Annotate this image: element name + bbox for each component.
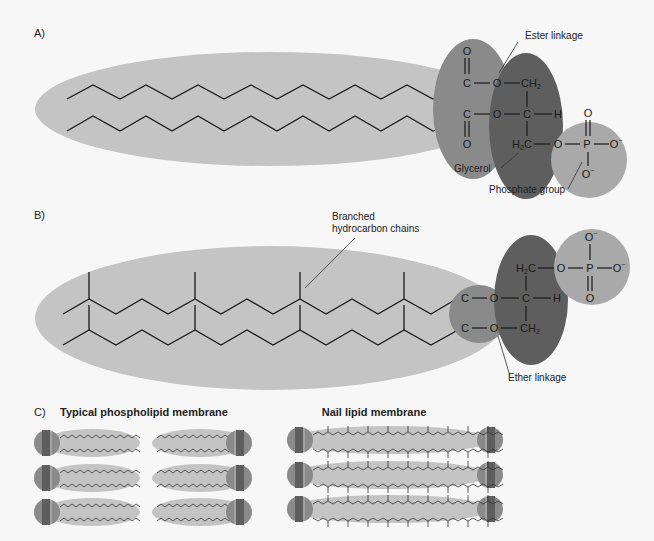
panel-a-atom: O [493,108,502,120]
typical-phospholipid-membrane [34,429,252,526]
panel-a-atom: O [463,45,472,57]
ether-linkage-label: Ether linkage [508,372,567,383]
panel-a-atom: C [463,77,471,89]
panel-b-atom: C [461,322,469,334]
phosphate-group-label: Phosphate group [489,184,566,195]
nail-lipid-row-3 [287,495,503,527]
panel-c-label: C) [34,406,46,418]
typical-lipid-right-row-1 [152,429,252,457]
panel-b-atom: H [553,292,561,304]
branched-chains-label-line1: Branched [332,211,375,222]
panel-b-atom: P [586,262,593,274]
panel-b-atom: O [586,292,595,304]
panel-a-atom: C [523,108,531,120]
panel-a-atom: O [493,77,502,89]
panel-a-glycerol-ellipse [489,53,563,199]
typical-lipid-left-row-3 [34,498,140,526]
panel-a-atom: C [463,108,471,120]
typical-lipid-left-row-2 [34,464,140,492]
branched-chains-label-line2: hydrocarbon chains [332,223,419,234]
panel-b-atom: C [461,292,469,304]
panel-a-atom: O [463,138,472,150]
panel-a-atom: H [554,108,562,120]
panel-b-label: B) [34,209,45,221]
nail-lipid-row-1 [287,426,503,458]
panel-b-atom: O [557,262,566,274]
nail-lipid-membrane [287,426,503,527]
nail-membrane-title: Nail lipid membrane [322,406,427,418]
lipid-membrane-diagram: A) O C O CH2 C O C H O H2C O P O− O O− E… [0,0,654,541]
panel-b-atom: O [490,292,499,304]
ester-linkage-label: Ester linkage [525,30,583,41]
diagram-canvas: A) O C O CH2 C O C H O H2C O P O− O O− E… [0,0,654,541]
typical-membrane-title: Typical phospholipid membrane [60,406,228,418]
nail-lipid-row-2 [287,461,503,493]
panel-a-label: A) [34,27,45,39]
panel-b-atom: C [522,292,530,304]
panel-b-hydrocarbon-tail-ellipse [35,246,505,390]
panel-a-atom: P [583,138,590,150]
typical-lipid-right-row-2 [152,464,252,492]
glycerol-label: Glycerol [454,163,491,174]
panel-b-atom: O [490,322,499,334]
panel-a-atom: O [554,138,563,150]
panel-a-atom: O [584,107,593,119]
typical-lipid-left-row-1 [34,429,140,457]
typical-lipid-right-row-3 [152,498,252,526]
